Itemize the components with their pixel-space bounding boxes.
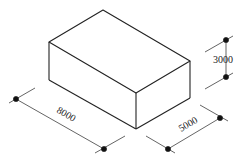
box-diagram: 8000 5000 3000 — [0, 0, 242, 165]
dim-width-label: 5000 — [177, 114, 200, 134]
dim-height-label: 3000 — [213, 54, 233, 65]
dim-length-label: 8000 — [55, 104, 78, 124]
